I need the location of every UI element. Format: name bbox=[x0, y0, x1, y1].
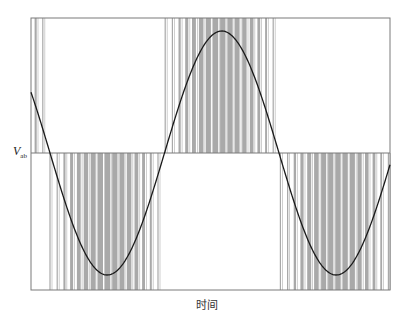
pwm-pulse-edge bbox=[74, 153, 75, 290]
pwm-pulse-edge bbox=[59, 153, 60, 290]
pwm-pulse-edge bbox=[363, 153, 364, 290]
pwm-pulse bbox=[335, 153, 340, 290]
pwm-pulse bbox=[280, 153, 281, 290]
pwm-pulse bbox=[265, 18, 267, 153]
pwm-pulse bbox=[328, 153, 333, 290]
pwm-pulse-edge bbox=[212, 18, 213, 153]
pwm-pulse-edge bbox=[297, 153, 298, 290]
pwm-pulse-bars bbox=[35, 18, 391, 290]
pwm-pulse-edge bbox=[268, 18, 269, 153]
pwm-pulse-edge bbox=[139, 153, 140, 290]
pwm-pulse bbox=[250, 18, 254, 153]
pwm-pulse bbox=[135, 153, 139, 290]
pwm-chart bbox=[0, 0, 401, 315]
x-axis-label: 时间 bbox=[196, 296, 218, 312]
pwm-pulse bbox=[294, 153, 296, 290]
pwm-pulse bbox=[98, 153, 103, 290]
pwm-pulse-edge bbox=[153, 153, 154, 290]
pwm-pulse-edge bbox=[132, 153, 133, 290]
y-axis-label-subscript: ab bbox=[20, 152, 27, 160]
pwm-pulse-edge bbox=[383, 153, 384, 290]
pwm-pulse-edge bbox=[146, 153, 147, 290]
pwm-pulse-edge bbox=[305, 153, 306, 290]
pwm-pulse bbox=[350, 153, 355, 290]
pwm-pulse-edge bbox=[275, 18, 276, 153]
pwm-pulse-edge bbox=[182, 18, 183, 153]
pwm-pulse-edge bbox=[227, 18, 228, 153]
pwm-pulse-edge bbox=[327, 153, 328, 290]
pwm-pulse-edge bbox=[289, 153, 290, 290]
y-axis-label: Vab bbox=[13, 144, 27, 160]
pwm-pulse bbox=[199, 18, 204, 153]
pwm-pulse bbox=[112, 153, 117, 290]
pwm-pulse bbox=[49, 153, 50, 290]
pwm-pulse bbox=[314, 153, 319, 290]
pwm-pulse bbox=[220, 18, 225, 153]
pwm-pulse bbox=[120, 153, 125, 290]
pwm-pulse-edge bbox=[248, 18, 249, 153]
pwm-pulse bbox=[165, 18, 166, 153]
pwm-pulse-edge bbox=[282, 153, 283, 290]
pwm-pulse-edge bbox=[38, 18, 39, 153]
pwm-pulse bbox=[213, 18, 218, 153]
pwm-pulse bbox=[373, 153, 376, 290]
pwm-pulse bbox=[287, 153, 288, 290]
pwm-pulse bbox=[235, 18, 240, 153]
pwm-pulse-edge bbox=[320, 153, 321, 290]
pwm-pulse-edge bbox=[342, 153, 343, 290]
pwm-pulse-edge bbox=[126, 153, 127, 290]
pwm-pulse-edge bbox=[349, 153, 350, 290]
pwm-pulse-edge bbox=[312, 153, 313, 290]
pwm-pulse-edge bbox=[160, 153, 161, 290]
pwm-pulse-edge bbox=[82, 153, 83, 290]
pwm-pulse bbox=[357, 153, 361, 290]
pwm-pulse-edge bbox=[104, 153, 105, 290]
pwm-pulse-edge bbox=[254, 18, 255, 153]
pwm-pulse-edge bbox=[376, 153, 377, 290]
pwm-pulse-edge bbox=[356, 153, 357, 290]
pwm-pulse-edge bbox=[219, 18, 220, 153]
pwm-pulse bbox=[307, 153, 311, 290]
pwm-pulse bbox=[35, 18, 37, 153]
pwm-pulse bbox=[172, 18, 173, 153]
pwm-pulse bbox=[127, 153, 131, 290]
pwm-pulse bbox=[105, 153, 110, 290]
pwm-pulse bbox=[42, 18, 43, 153]
pwm-pulse-edge bbox=[189, 18, 190, 153]
pwm-pulse bbox=[227, 18, 232, 153]
pwm-pulse bbox=[63, 153, 65, 290]
pwm-pulse-edge bbox=[66, 153, 67, 290]
pwm-pulse-edge bbox=[370, 153, 371, 290]
pwm-pulse bbox=[380, 153, 382, 290]
pwm-pulse-edge bbox=[241, 18, 242, 153]
pwm-pulse-edge bbox=[167, 18, 168, 153]
pwm-pulse-edge bbox=[111, 153, 112, 290]
pwm-pulse-edge bbox=[335, 153, 336, 290]
pwm-pulse bbox=[91, 153, 96, 290]
pwm-pulse bbox=[242, 18, 246, 153]
pwm-pulse bbox=[150, 153, 152, 290]
pwm-pulse bbox=[365, 153, 369, 290]
pwm-pulse-edge bbox=[89, 153, 90, 290]
pwm-pulse bbox=[192, 18, 196, 153]
pwm-pulse-edge bbox=[174, 18, 175, 153]
pwm-pulse bbox=[179, 18, 181, 153]
pwm-pulse bbox=[77, 153, 81, 290]
pwm-pulse-edge bbox=[205, 18, 206, 153]
pwm-pulse-edge bbox=[197, 18, 198, 153]
pwm-pulse bbox=[84, 153, 89, 290]
pwm-pulse-edge bbox=[52, 153, 53, 290]
pwm-pulse-edge bbox=[261, 18, 262, 153]
